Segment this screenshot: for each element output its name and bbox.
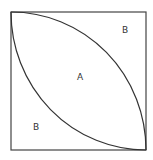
lens-diagram: A B B — [0, 0, 153, 160]
region-b-top-label: B — [122, 25, 128, 35]
region-a-label: A — [77, 72, 84, 82]
region-b-bottom-label: B — [33, 122, 39, 132]
